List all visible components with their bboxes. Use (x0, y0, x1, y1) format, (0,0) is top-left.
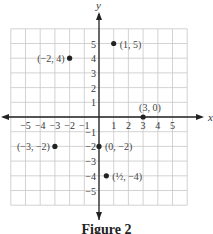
x-tick-label: 3 (141, 120, 146, 131)
x-tick-label: −5 (20, 120, 31, 131)
point-label: (−3, −2) (17, 141, 50, 153)
x-axis-right-arrow-icon (196, 114, 204, 120)
y-tick-label: −1 (85, 127, 96, 138)
point-label: (0, −2) (105, 141, 132, 153)
x-tick-label: −4 (35, 120, 46, 131)
data-point (141, 114, 146, 119)
x-axis-label: x (207, 111, 213, 123)
data-point (67, 56, 72, 61)
data-point (52, 144, 57, 149)
y-tick-label: −3 (85, 156, 96, 167)
y-tick-label: 3 (91, 68, 96, 79)
y-tick-label: 2 (91, 83, 96, 94)
coordinate-plane: xy−5−4−3−2−11234554321−1−2−3−4−5(1, 5)(−… (0, 0, 213, 234)
y-tick-label: −4 (85, 171, 96, 182)
y-tick-label: 4 (91, 53, 96, 64)
y-tick-label: 1 (91, 97, 96, 108)
y-axis-up-arrow-icon (96, 12, 102, 20)
x-tick-label: 2 (126, 120, 131, 131)
x-tick-label: 1 (111, 120, 116, 131)
y-tick-label: 5 (91, 39, 96, 50)
y-tick-label: −2 (85, 141, 96, 152)
y-tick-label: −5 (85, 186, 96, 197)
point-label: (1, 5) (120, 39, 142, 51)
y-axis-label: y (95, 0, 101, 11)
data-point (104, 173, 109, 178)
figure-caption: Figure 2 (0, 222, 213, 234)
x-tick-label: −2 (64, 120, 75, 131)
x-axis-left-arrow-icon (1, 114, 9, 120)
point-label: (½, −4) (112, 171, 142, 183)
data-point (96, 144, 101, 149)
point-label: (3, 0) (139, 102, 161, 114)
x-tick-label: 4 (155, 120, 160, 131)
x-tick-label: −3 (50, 120, 61, 131)
y-axis-down-arrow-icon (96, 212, 102, 220)
x-tick-label: 5 (170, 120, 175, 131)
data-point (111, 41, 116, 46)
point-label: (−2, 4) (37, 53, 64, 65)
